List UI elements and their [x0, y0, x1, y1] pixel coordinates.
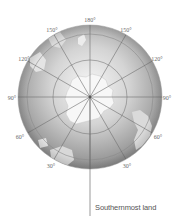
label-60-right: 60°	[154, 134, 162, 140]
label-90-left: 90°	[8, 95, 16, 101]
polar-globe	[0, 0, 180, 223]
label-60-left: 60°	[16, 134, 24, 140]
label-150-right: 150°	[120, 27, 131, 33]
label-120-right: 120°	[151, 56, 162, 62]
south-pole-point	[89, 96, 92, 99]
label-30-left: 30°	[47, 163, 55, 169]
caption-southernmost-land: Southernmost land	[95, 203, 156, 212]
label-180: 180°	[84, 17, 95, 23]
label-120-left: 120°	[18, 56, 29, 62]
label-90-right: 90°	[163, 95, 171, 101]
label-150-left: 150°	[46, 27, 57, 33]
label-30-right: 30°	[123, 163, 131, 169]
